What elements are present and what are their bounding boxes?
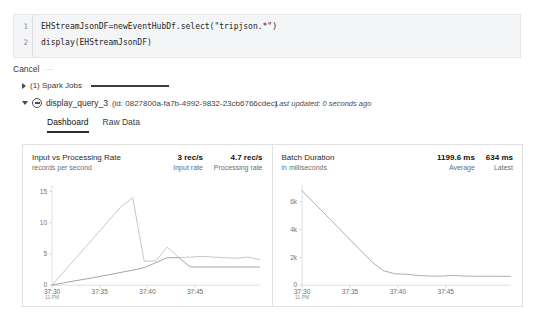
last-updated-label: Last updated: 0 seconds ago [275, 99, 371, 108]
dashboard-tabs: Dashboard Raw Data [47, 117, 140, 133]
metric-value: 634 ms [486, 153, 513, 162]
code-line: EHStreamJsonDF=newEventHubDf.select("tri… [41, 19, 520, 35]
svg-text:37:35: 37:35 [341, 288, 358, 295]
cancel-button[interactable]: Cancel [13, 64, 39, 74]
svg-text:11 PM: 11 PM [295, 294, 309, 300]
chart-subtitle: records per second [32, 164, 121, 171]
svg-text:37:45: 37:45 [437, 288, 454, 295]
svg-text:4k: 4k [290, 226, 298, 233]
line-number: 1 [14, 19, 32, 35]
query-id: (id: 0827800a-fa7b-4992-9832-23cb6766cde… [112, 99, 277, 108]
metric-caption: Processing rate [214, 164, 263, 171]
chart-title-block: Batch Duration in milliseconds [282, 153, 335, 171]
spark-jobs-label: (1) Spark Jobs [30, 81, 82, 90]
chart-metrics: 3 rec/s Input rate 4.7 rec/s Processing … [173, 153, 262, 171]
line-number: 2 [14, 35, 32, 51]
code-cell[interactable]: 1 2 EHStreamJsonDF=newEventHubDf.select(… [13, 14, 521, 58]
chart-title: Batch Duration [282, 153, 335, 162]
metric-latest: 634 ms Latest [486, 153, 513, 171]
metric-average: 1199.6 ms Average [437, 153, 475, 171]
chart-card-input-vs-processing-rate: Input vs Processing Rate records per sec… [23, 145, 273, 306]
cancel-row: Cancel ··· [13, 64, 54, 74]
svg-text:15: 15 [40, 188, 48, 195]
tab-dashboard[interactable]: Dashboard [47, 117, 89, 133]
svg-text:37:40: 37:40 [389, 288, 406, 295]
metric-value: 4.7 rec/s [214, 153, 263, 162]
more-options-icon[interactable]: ··· [44, 65, 54, 74]
svg-text:5: 5 [43, 250, 47, 257]
chart-metrics: 1199.6 ms Average 634 ms Latest [437, 153, 513, 171]
chart-plot-area: 05101537:3011 PM37:3537:4037:45 [32, 181, 263, 302]
metric-value: 1199.6 ms [437, 153, 475, 162]
svg-text:37:45: 37:45 [187, 288, 204, 295]
chevron-down-icon[interactable] [22, 101, 28, 105]
stream-query-row[interactable]: display_query_3 (id: 0827800a-fa7b-4992-… [22, 98, 277, 108]
svg-text:6k: 6k [290, 198, 298, 205]
chevron-right-icon[interactable] [22, 83, 26, 89]
svg-text:10: 10 [40, 219, 48, 226]
code-editor[interactable]: EHStreamJsonDF=newEventHubDf.select("tri… [33, 15, 520, 57]
chart-plot-area: 02k4k6k37:3011 PM37:3537:4037:45 [282, 181, 514, 302]
chart-svg: 05101537:3011 PM37:3537:4037:45 [32, 181, 263, 302]
svg-text:11 PM: 11 PM [45, 294, 59, 300]
svg-text:2k: 2k [290, 254, 298, 261]
query-name: display_query_3 [46, 98, 108, 108]
metric-value: 3 rec/s [173, 153, 203, 162]
metric-input-rate: 3 rec/s Input rate [173, 153, 203, 171]
chart-title-block: Input vs Processing Rate records per sec… [32, 153, 121, 171]
svg-text:37:40: 37:40 [139, 288, 156, 295]
metric-caption: Input rate [173, 164, 203, 171]
chart-card-batch-duration: Batch Duration in milliseconds 1199.6 ms… [273, 145, 523, 306]
tab-raw-data[interactable]: Raw Data [103, 117, 140, 133]
metric-caption: Latest [486, 164, 513, 171]
chart-subtitle: in milliseconds [282, 164, 335, 171]
chart-header: Batch Duration in milliseconds 1199.6 ms… [282, 153, 514, 171]
chart-svg: 02k4k6k37:3011 PM37:3537:4037:45 [282, 181, 514, 302]
metric-caption: Average [437, 164, 475, 171]
spark-jobs-row[interactable]: (1) Spark Jobs [22, 81, 169, 90]
code-line: display(EHStreamJsonDF) [41, 35, 520, 51]
progress-bar [91, 85, 169, 87]
metric-processing-rate: 4.7 rec/s Processing rate [214, 153, 263, 171]
chart-header: Input vs Processing Rate records per sec… [32, 153, 263, 171]
code-gutter: 1 2 [14, 15, 33, 57]
chart-title: Input vs Processing Rate [32, 153, 121, 162]
stream-dashboard-panel: Input vs Processing Rate records per sec… [22, 144, 523, 307]
stop-icon[interactable] [32, 98, 42, 108]
svg-text:37:35: 37:35 [92, 288, 109, 295]
